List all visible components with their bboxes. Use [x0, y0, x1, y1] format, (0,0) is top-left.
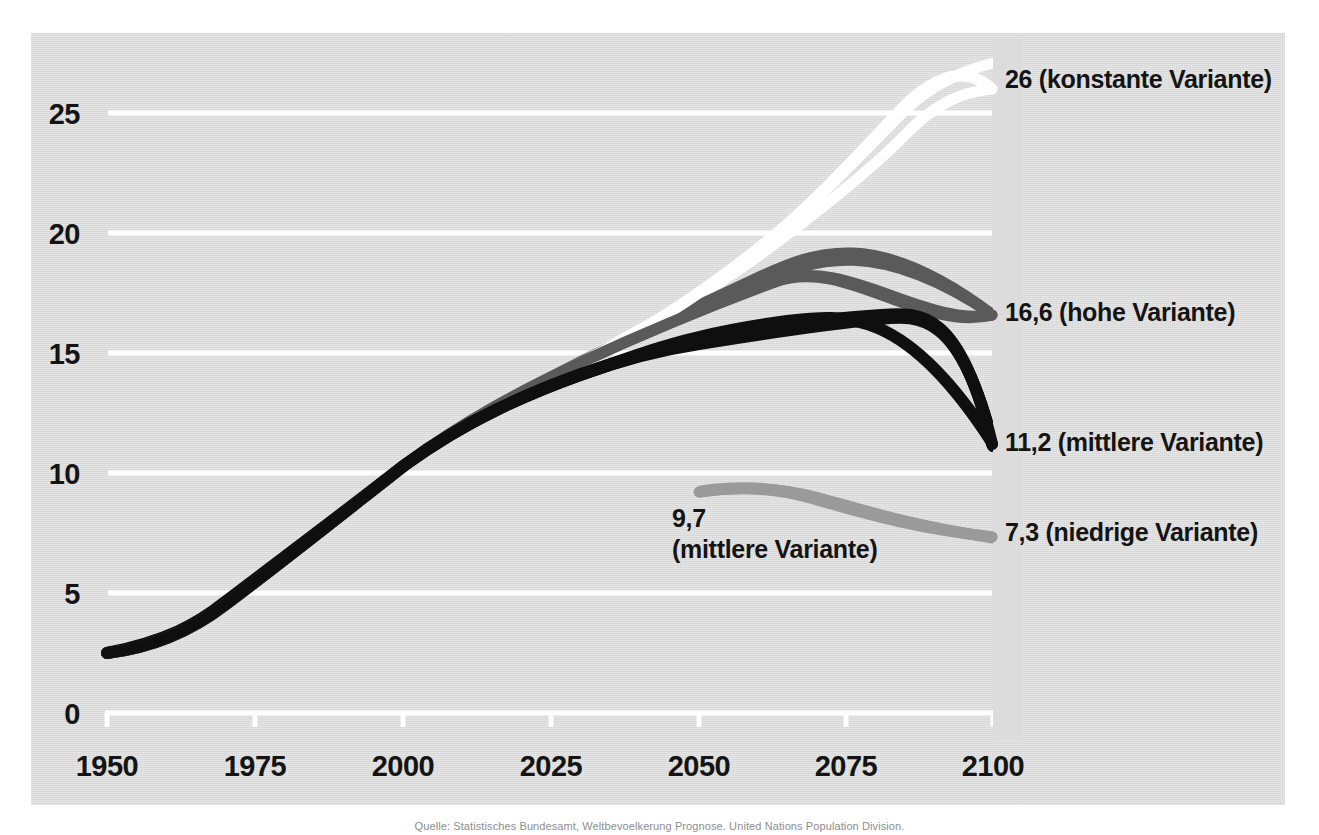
x-tick-label-1950: 1950: [42, 750, 172, 783]
y-tick-label-25: 25: [10, 98, 80, 131]
x-tick-label-2000: 2000: [338, 750, 468, 783]
y-tick-label-0: 0: [10, 698, 80, 731]
y-tick-label-10: 10: [10, 458, 80, 491]
series-label-mittlere-variante: 11,2 (mittlere Variante): [1005, 428, 1263, 457]
y-tick-label-20: 20: [10, 218, 80, 251]
x-tick-label-2025: 2025: [486, 750, 616, 783]
midpoint-2050-annotation: 9,7 (mittlere Variante): [672, 503, 877, 564]
endpoint-niedrige: [987, 532, 998, 543]
curve-mittlere: [107, 315, 993, 653]
chart-plot-svg: [0, 0, 1319, 835]
y-tick-label-5: 5: [10, 578, 80, 611]
x-tick-label-2050: 2050: [634, 750, 764, 783]
x-axis: [105, 713, 995, 727]
chart-figure: 25 20 15 10 5 0 1950 1975 2000 2025 2050…: [0, 0, 1319, 835]
midpoint-2050-variant: (mittlere Variante): [672, 534, 877, 565]
series-label-konstante-variante: 26 (konstante Variante): [1005, 65, 1272, 94]
x-tick-label-2075: 2075: [781, 750, 911, 783]
endpoint-mittlere: [986, 438, 998, 450]
endpoint-konstante: [987, 84, 998, 95]
series-label-niedrige-variante: 7,3 (niedrige Variante): [1005, 518, 1258, 547]
series-line-konstante-variante: [107, 89, 993, 653]
x-tick-label-1975: 1975: [190, 750, 320, 783]
series-line-mittlere-variante: [107, 318, 993, 653]
x-tick-label-2100: 2100: [928, 750, 1058, 783]
endpoint-hohe: [987, 310, 998, 321]
source-caption: Quelle: Statistisches Bundesamt, Weltbev…: [0, 820, 1319, 835]
curve-mittlere-final: [107, 314, 992, 653]
midpoint-2050-value: 9,7: [672, 503, 877, 534]
series-label-hohe-variante: 16,6 (hohe Variante): [1005, 298, 1235, 327]
y-tick-label-15: 15: [10, 338, 80, 371]
